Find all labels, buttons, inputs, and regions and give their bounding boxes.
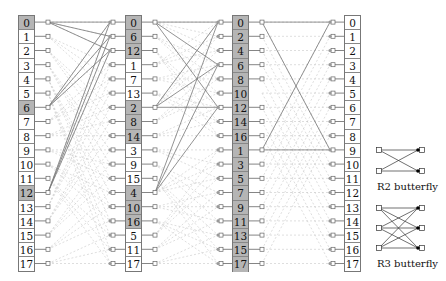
r2-butterfly-label: R2 butterfly — [377, 181, 438, 192]
butterfly-legend — [0, 0, 446, 281]
fft-flow-diagram: 01234567891011121314151617 0612171328143… — [0, 0, 446, 281]
r3-butterfly-label: R3 butterfly — [377, 258, 438, 269]
